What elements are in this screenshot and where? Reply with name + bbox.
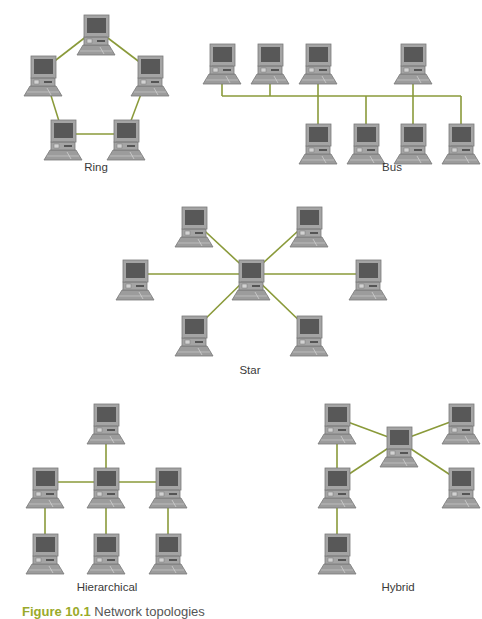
drive-bay	[97, 558, 102, 562]
drive-slot	[319, 149, 327, 151]
keyboard-icon	[380, 457, 418, 467]
monitor-base	[356, 145, 377, 147]
monitor-base	[308, 145, 329, 147]
drive-slot	[107, 559, 115, 561]
figure-number: Figure 10.1	[22, 604, 91, 619]
drive-slot	[223, 69, 231, 71]
drive-bay	[141, 80, 146, 84]
drive-bay	[185, 340, 190, 344]
monitor-screen	[36, 471, 55, 486]
keyboard-icon	[232, 290, 270, 300]
bus-computer-icon	[299, 44, 337, 84]
drive-bay	[87, 39, 92, 43]
monitor-base	[140, 77, 161, 79]
figure-title: Network topologies	[94, 604, 205, 619]
monitor-screen	[300, 210, 319, 225]
monitor-base	[389, 448, 410, 450]
keyboard-icon	[442, 498, 480, 508]
drive-slot	[46, 493, 54, 495]
drive-bay	[185, 231, 190, 235]
keyboard-icon	[44, 150, 82, 160]
hybrid-computer-icon	[318, 404, 356, 444]
keyboard-icon	[318, 434, 356, 444]
star-computer-icon	[290, 316, 328, 356]
keyboard-icon	[175, 237, 213, 247]
drive-bay	[328, 428, 333, 432]
keyboard-icon	[203, 74, 241, 84]
monitor-base	[358, 281, 379, 283]
drive-slot	[338, 493, 346, 495]
monitor-base	[96, 555, 117, 557]
drive-bay	[159, 558, 164, 562]
monitor-base	[158, 489, 179, 491]
drive-slot	[338, 559, 346, 561]
keyboard-icon	[442, 434, 480, 444]
keyboard-icon	[26, 564, 64, 574]
monitor-base	[299, 228, 320, 230]
monitor-screen	[87, 18, 106, 33]
monitor-screen	[36, 537, 55, 552]
monitor-screen	[185, 210, 204, 225]
monitor-screen	[404, 47, 423, 62]
drive-slot	[127, 145, 135, 147]
monitor-screen	[34, 59, 53, 74]
keyboard-icon	[77, 45, 115, 55]
monitor-screen	[97, 471, 116, 486]
drive-slot	[400, 452, 408, 454]
drive-slot	[107, 429, 115, 431]
drive-bay	[36, 492, 41, 496]
star-computer-icon	[349, 260, 387, 300]
monitor-screen	[328, 537, 347, 552]
monitor-screen	[185, 319, 204, 334]
monitor-screen	[159, 471, 178, 486]
monitor-base	[184, 337, 205, 339]
keyboard-icon	[394, 74, 432, 84]
monitor-base	[327, 489, 348, 491]
hierarchical-computer-icon	[26, 468, 64, 508]
bus-computer-icon	[251, 44, 289, 84]
monitor-screen	[117, 123, 136, 138]
drive-bay	[34, 80, 39, 84]
keyboard-icon	[290, 346, 328, 356]
drive-bay	[159, 492, 164, 496]
drive-bay	[404, 148, 409, 152]
hybrid-computer-icon	[318, 468, 356, 508]
keyboard-icon	[442, 154, 480, 164]
drive-slot	[310, 341, 318, 343]
monitor-base	[299, 337, 320, 339]
monitor-screen	[404, 127, 423, 142]
hierarchical-computer-icon	[26, 534, 64, 574]
hierarchical-computer-icon	[149, 468, 187, 508]
drive-bay	[359, 284, 364, 288]
drive-bay	[390, 451, 395, 455]
hybrid-computer-icon	[442, 404, 480, 444]
keyboard-icon	[251, 74, 289, 84]
star-computer-icon	[290, 207, 328, 247]
keyboard-icon	[347, 154, 385, 164]
star-computer-icon	[175, 207, 213, 247]
drive-bay	[328, 558, 333, 562]
keyboard-icon	[87, 564, 125, 574]
drive-bay	[404, 68, 409, 72]
monitor-screen	[452, 127, 471, 142]
keyboard-icon	[107, 150, 145, 160]
drive-bay	[300, 231, 305, 235]
monitor-base	[184, 228, 205, 230]
monitor-screen	[261, 47, 280, 62]
drive-bay	[126, 284, 131, 288]
monitor-screen	[141, 59, 160, 74]
keyboard-icon	[299, 154, 337, 164]
drive-bay	[213, 68, 218, 72]
drive-slot	[414, 149, 422, 151]
star-computer-icon	[232, 260, 270, 300]
monitor-base	[116, 141, 137, 143]
drive-slot	[369, 285, 377, 287]
drive-slot	[367, 149, 375, 151]
monitor-base	[33, 77, 54, 79]
star-computer-icon	[116, 260, 154, 300]
ring-computer-icon	[131, 56, 169, 96]
drive-bay	[36, 558, 41, 562]
monitor-screen	[126, 263, 145, 278]
monitor-screen	[242, 263, 261, 278]
ring-label: Ring	[84, 161, 108, 173]
